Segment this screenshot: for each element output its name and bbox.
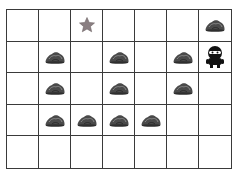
- grid-cell-r0-c0[interactable]: [7, 10, 39, 42]
- grid-cell-r0-c6[interactable]: [199, 10, 231, 42]
- grid-cell-r3-c4[interactable]: [135, 105, 167, 137]
- grid-cell-r3-c6[interactable]: [199, 105, 231, 137]
- grid-cell-r4-c4[interactable]: [135, 136, 167, 168]
- grid-cell-r3-c1[interactable]: [39, 105, 71, 137]
- grid-cell-r1-c3[interactable]: [103, 42, 135, 74]
- rock-icon: [44, 81, 66, 95]
- grid-cell-r3-c3[interactable]: [103, 105, 135, 137]
- grid-cell-r0-c5[interactable]: [167, 10, 199, 42]
- grid-cell-r4-c3[interactable]: [103, 136, 135, 168]
- grid-cell-r0-c3[interactable]: [103, 10, 135, 42]
- rock-icon: [108, 50, 130, 64]
- grid-cell-r3-c0[interactable]: [7, 105, 39, 137]
- grid-cell-r1-c2[interactable]: [71, 42, 103, 74]
- grid-cell-r3-c2[interactable]: [71, 105, 103, 137]
- grid-cell-r2-c0[interactable]: [7, 73, 39, 105]
- grid-cell-r2-c3[interactable]: [103, 73, 135, 105]
- grid-cell-r2-c2[interactable]: [71, 73, 103, 105]
- grid-cell-r4-c6[interactable]: [199, 136, 231, 168]
- rock-icon: [108, 81, 130, 95]
- grid-cell-r1-c0[interactable]: [7, 42, 39, 74]
- grid-cell-r1-c1[interactable]: [39, 42, 71, 74]
- grid-cell-r4-c2[interactable]: [71, 136, 103, 168]
- game-grid: [6, 9, 232, 169]
- rock-icon: [172, 50, 194, 64]
- grid-cell-r2-c5[interactable]: [167, 73, 199, 105]
- grid-cell-r0-c2[interactable]: [71, 10, 103, 42]
- grid-cell-r1-c5[interactable]: [167, 42, 199, 74]
- grid-cell-r0-c4[interactable]: [135, 10, 167, 42]
- grid-cell-r1-c6[interactable]: [199, 42, 231, 74]
- rock-icon: [44, 113, 66, 127]
- grid-cell-r0-c1[interactable]: [39, 10, 71, 42]
- rock-icon: [76, 113, 98, 127]
- grid-cell-r4-c0[interactable]: [7, 136, 39, 168]
- rock-icon: [108, 113, 130, 127]
- grid-cell-r1-c4[interactable]: [135, 42, 167, 74]
- rock-icon: [44, 50, 66, 64]
- star-icon: [78, 16, 96, 34]
- grid-cell-r4-c1[interactable]: [39, 136, 71, 168]
- grid-cell-r4-c5[interactable]: [167, 136, 199, 168]
- robot-agent-icon: [205, 45, 225, 69]
- grid-cell-r2-c4[interactable]: [135, 73, 167, 105]
- grid-cell-r2-c6[interactable]: [199, 73, 231, 105]
- grid-cell-r3-c5[interactable]: [167, 105, 199, 137]
- grid-cell-r2-c1[interactable]: [39, 73, 71, 105]
- rock-icon: [204, 18, 226, 32]
- rock-icon: [172, 81, 194, 95]
- rock-icon: [140, 113, 162, 127]
